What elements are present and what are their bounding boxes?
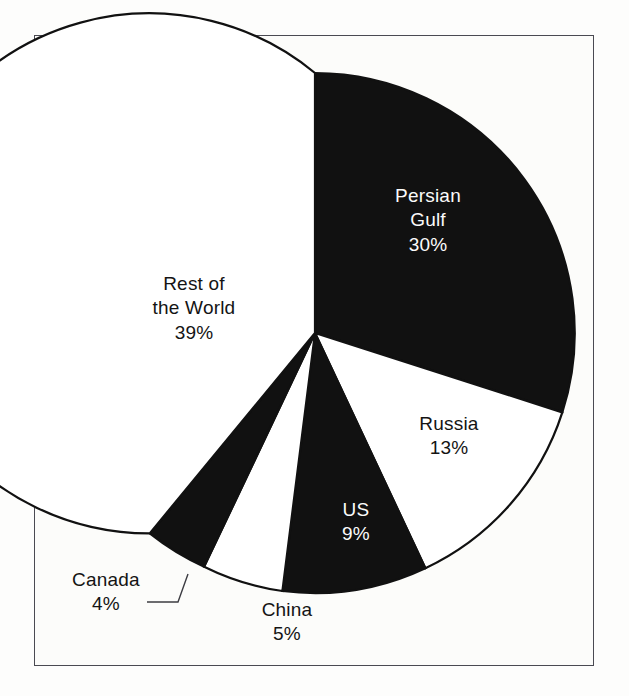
pie-label-china: China 5% bbox=[232, 598, 342, 647]
pie-label-persian-gulf: Persian Gulf 30% bbox=[368, 184, 488, 257]
pie-label-russia-line1: Russia bbox=[394, 412, 504, 436]
pie-label-canada: Canada 4% bbox=[48, 568, 164, 617]
pie-label-us-value: 9% bbox=[318, 522, 394, 546]
pie-label-rest-of-the-world-value: 39% bbox=[118, 321, 270, 345]
pie-label-canada-value: 4% bbox=[48, 592, 164, 616]
pie-label-russia: Russia 13% bbox=[394, 412, 504, 461]
pie-label-us-line1: US bbox=[318, 498, 394, 522]
pie-label-china-line1: China bbox=[232, 598, 342, 622]
chart-page: Persian Gulf 30% Russia 13% US 9% China … bbox=[0, 0, 629, 696]
pie-label-rest-of-the-world-line2: the World bbox=[118, 296, 270, 320]
pie-label-china-value: 5% bbox=[232, 622, 342, 646]
pie-label-persian-gulf-line2: Gulf bbox=[368, 208, 488, 232]
pie-label-rest-of-the-world-line1: Rest of bbox=[118, 272, 270, 296]
pie-label-us: US 9% bbox=[318, 498, 394, 547]
pie-label-canada-line1: Canada bbox=[48, 568, 164, 592]
pie-label-rest-of-the-world: Rest of the World 39% bbox=[118, 272, 270, 345]
pie-label-russia-value: 13% bbox=[394, 436, 504, 460]
pie-label-persian-gulf-line1: Persian bbox=[368, 184, 488, 208]
pie-label-persian-gulf-value: 30% bbox=[368, 233, 488, 257]
